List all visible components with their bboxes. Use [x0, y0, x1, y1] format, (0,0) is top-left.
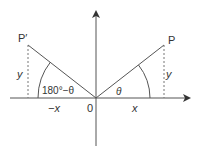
label-y-left: y	[16, 68, 24, 80]
label-x-right: x	[131, 102, 138, 114]
ray-op	[96, 45, 164, 98]
label-p-prime: P′	[18, 32, 27, 44]
theta-arc	[139, 65, 151, 98]
label-supplement: 180°−θ	[42, 85, 75, 96]
label-x-left: −x	[48, 102, 60, 114]
label-y-right: y	[165, 68, 173, 80]
label-p: P	[168, 34, 175, 46]
label-origin: 0	[87, 102, 93, 114]
label-theta: θ	[116, 86, 122, 97]
diagram-canvas: P P′ 0 x −x y y θ 180°−θ	[0, 0, 202, 149]
